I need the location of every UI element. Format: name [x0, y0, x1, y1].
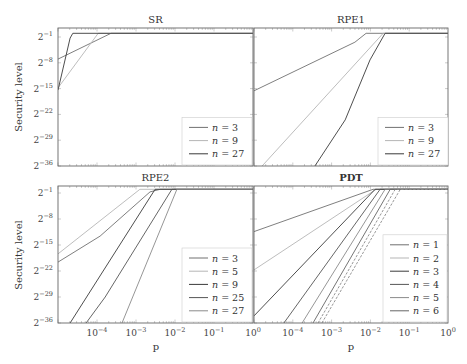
legend: n = 3n = 9n = 27: [378, 117, 448, 165]
series-line-n1: [254, 189, 448, 231]
y-tick-label: 2−29: [34, 133, 53, 145]
x-axis-label-left: p: [153, 341, 159, 352]
y-tick-label: 2−36: [34, 316, 53, 328]
legend: n = 3n = 5n = 9n = 25n = 27: [182, 248, 252, 322]
x-tick-label: 10−3: [321, 326, 342, 338]
legend-label: n = 27: [212, 305, 244, 316]
series-line-n3: [254, 33, 448, 91]
y-tick-label: 2−8: [38, 212, 53, 224]
legend-label: n = 9: [408, 135, 434, 146]
y-tick-label: 2−36: [34, 159, 53, 171]
panel-pdt: PDT10−410−310−210−1100n = 1n = 2n = 3n =…: [254, 172, 456, 338]
x-axis-label-right: p: [348, 341, 354, 352]
panel-title: PDT: [339, 172, 363, 183]
series-line-n9: [58, 33, 253, 88]
x-tick-label: 100: [245, 326, 261, 338]
x-tick-label: 10−3: [125, 326, 146, 338]
x-tick-label: 10−1: [203, 326, 224, 338]
legend-label: n = 1: [413, 239, 439, 250]
y-tick-label: 2−15: [34, 82, 53, 94]
svg-text:Security level: Security level: [13, 220, 24, 290]
x-tick-label: 10−4: [86, 326, 107, 338]
y-tick-label: 2−15: [34, 238, 53, 250]
legend-label: n = 5: [212, 266, 238, 277]
svg-text:Security level: Security level: [13, 62, 24, 132]
x-tick-label: 10−1: [399, 326, 420, 338]
legend-label: n = 3: [212, 122, 238, 133]
y-tick-label: 2−29: [34, 290, 53, 302]
legend-label: n = 27: [212, 148, 244, 159]
series-line-n3: [58, 33, 253, 59]
y-tick-label: 2−1: [38, 186, 53, 198]
series-group: [58, 33, 253, 90]
legend-label: n = 5: [413, 292, 439, 303]
y-tick-label: 2−8: [38, 56, 53, 68]
legend: n = 3n = 9n = 27: [182, 117, 252, 165]
legend-label: n = 3: [212, 253, 238, 264]
legend-label: n = 25: [212, 292, 244, 303]
series-line-n27: [58, 33, 253, 90]
y-axis-label-top: Security level: [13, 62, 24, 132]
legend-label: n = 4: [413, 279, 439, 290]
panel-title: RPE1: [337, 14, 365, 25]
panel-title: RPE2: [142, 172, 170, 183]
x-tick-label: 10−4: [282, 326, 303, 338]
x-tick-label: 100: [440, 326, 456, 338]
x-tick-label: 10−2: [164, 326, 185, 338]
legend-label: n = 9: [212, 279, 238, 290]
y-tick-label: 2−22: [34, 107, 53, 119]
legend-label: n = 3: [408, 122, 434, 133]
panel-rpe2: RPE22−12−82−152−222−292−3610−410−310−210…: [34, 172, 261, 338]
legend-label: n = 6: [413, 305, 439, 316]
legend-label: n = 27: [408, 148, 440, 159]
y-tick-label: 2−22: [34, 264, 53, 276]
figure: Security level Security level p p SR2−12…: [0, 0, 467, 364]
legend: n = 1n = 2n = 3n = 4n = 5n = 6: [383, 235, 447, 322]
panel-sr: SR2−12−82−152−222−292−36n = 3n = 9n = 27: [34, 14, 253, 171]
y-tick-label: 2−1: [38, 30, 53, 42]
panel-title: SR: [148, 14, 163, 25]
y-axis-label-bottom: Security level: [13, 220, 24, 290]
legend-label: n = 9: [212, 135, 238, 146]
panel-rpe1: RPE1n = 3n = 9n = 27: [254, 14, 448, 166]
x-tick-label: 10−2: [360, 326, 381, 338]
legend-label: n = 3: [413, 266, 439, 277]
legend-label: n = 2: [413, 253, 439, 264]
